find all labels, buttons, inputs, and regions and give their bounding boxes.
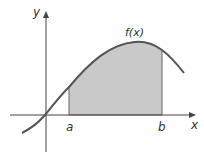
lower-bound-label: a <box>66 120 73 134</box>
x-axis-label: x <box>190 118 199 132</box>
y-axis-label: y <box>32 5 41 19</box>
shaded-area <box>69 42 162 115</box>
integral-diagram: y x f(x) a b <box>0 0 204 156</box>
curve-label: f(x) <box>125 26 144 39</box>
y-axis-arrow-icon <box>43 11 49 18</box>
upper-bound-label: b <box>158 120 166 134</box>
